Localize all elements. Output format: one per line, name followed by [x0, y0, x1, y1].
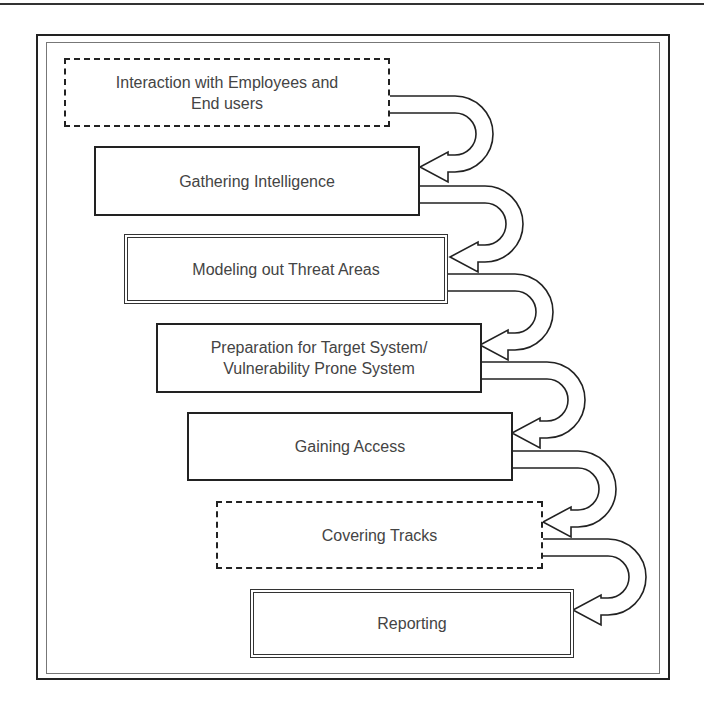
- step-reporting: Reporting: [250, 589, 574, 658]
- step-label-line1: Interaction with Employees and: [116, 72, 338, 93]
- step-label-line2: Vulnerability Prone System: [211, 358, 428, 379]
- step-gaining-access: Gaining Access: [187, 412, 513, 481]
- step-label-line1: Preparation for Target System/: [211, 337, 428, 358]
- step-label: Gathering Intelligence: [179, 171, 335, 192]
- step-label: Reporting: [377, 613, 446, 634]
- step-modeling-threat-areas: Modeling out Threat Areas: [124, 234, 448, 304]
- step-gathering-intelligence: Gathering Intelligence: [94, 146, 420, 216]
- step-label: Covering Tracks: [322, 525, 438, 546]
- step-label: Gaining Access: [295, 436, 405, 457]
- step-preparation-target-system: Preparation for Target System/ Vulnerabi…: [156, 323, 482, 393]
- step-label: Modeling out Threat Areas: [192, 259, 379, 280]
- step-interaction-employees: Interaction with Employees and End users: [64, 58, 390, 127]
- step-covering-tracks: Covering Tracks: [216, 501, 543, 569]
- step-label-line2: End users: [116, 93, 338, 114]
